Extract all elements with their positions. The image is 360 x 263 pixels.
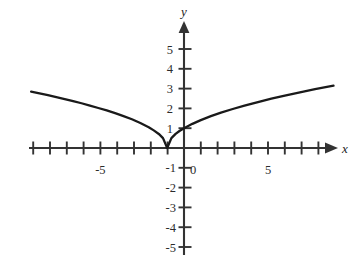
y-tick-label--4: -4 <box>166 221 177 235</box>
x-tick-label-5: 5 <box>265 163 271 177</box>
y-tick-label--3: -3 <box>166 201 176 215</box>
x-axis-arrow-icon <box>325 143 338 154</box>
y-tick-label--2: -2 <box>166 181 176 195</box>
y-axis-arrow-icon <box>179 21 190 33</box>
x-tick-label--5: -5 <box>95 163 105 177</box>
x-tick-label-0: 0 <box>190 163 196 177</box>
y-tick-label--5: -5 <box>166 241 176 255</box>
function-curve <box>31 86 333 148</box>
y-tick-label-2: 2 <box>167 102 173 116</box>
y-axis <box>179 21 190 255</box>
graph-figure: -5 0 5 5 4 3 2 1 -1 -2 -3 -4 -5 x y <box>0 0 360 263</box>
y-axis-label: y <box>179 4 187 19</box>
y-tick-label--1: -1 <box>166 161 176 175</box>
coordinate-plane-svg: -5 0 5 5 4 3 2 1 -1 -2 -3 -4 -5 x y <box>0 0 360 263</box>
y-tick-label-3: 3 <box>167 82 173 96</box>
y-tick-label-5: 5 <box>167 43 173 57</box>
y-tick-label-1: 1 <box>167 122 173 136</box>
y-tick-label-4: 4 <box>167 62 174 76</box>
x-axis-label: x <box>341 141 348 156</box>
